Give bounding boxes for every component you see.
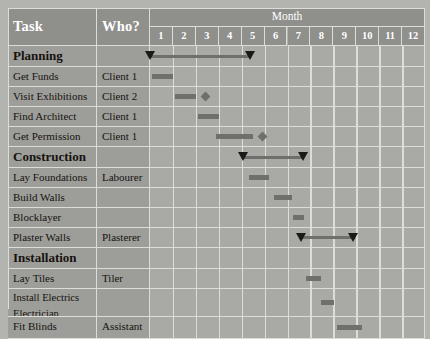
- gantt-row[interactable]: Get FundsClient 1: [8, 67, 425, 87]
- task-name-cell: Blocklayer: [8, 208, 97, 228]
- timeline-cell[interactable]: [150, 289, 425, 317]
- gridline: [356, 147, 358, 167]
- task-bar[interactable]: [293, 215, 303, 220]
- timeline-cell[interactable]: [150, 87, 425, 107]
- gridline: [173, 269, 175, 288]
- gantt-row[interactable]: Installation: [8, 248, 425, 269]
- who-label: Client 2: [102, 87, 149, 106]
- timeline-cell[interactable]: [150, 208, 425, 228]
- who-label: Tiler: [102, 269, 149, 288]
- who-cell: Client 1: [97, 107, 150, 127]
- task-bar[interactable]: [216, 134, 253, 139]
- task-name-label: Install Electrics: [13, 289, 96, 305]
- milestone-diamond-icon[interactable]: [200, 92, 210, 102]
- gridline: [333, 317, 335, 338]
- task-bar[interactable]: [175, 94, 196, 99]
- task-bar[interactable]: [306, 276, 321, 281]
- gantt-row[interactable]: Find ArchitectClient 1: [8, 107, 425, 127]
- task-name-cell: Plaster Walls: [8, 228, 97, 248]
- summary-bar[interactable]: [301, 236, 354, 239]
- timeline-cell[interactable]: [150, 67, 425, 87]
- gridline: [356, 248, 358, 268]
- gantt-row[interactable]: Blocklayer: [8, 208, 425, 228]
- gridline: [402, 317, 404, 338]
- gridline: [196, 188, 198, 207]
- gridline: [402, 107, 404, 126]
- summary-bar[interactable]: [244, 156, 304, 159]
- gridline: [356, 208, 358, 227]
- timeline-cell[interactable]: [150, 269, 425, 289]
- gantt-row[interactable]: Planning: [8, 46, 425, 67]
- who-cell: Client 1: [97, 67, 150, 87]
- gridline: [288, 46, 290, 66]
- gridline: [242, 208, 244, 227]
- who-cell: Tiler: [97, 269, 150, 289]
- task-bar[interactable]: [198, 114, 219, 119]
- gridline: [242, 67, 244, 86]
- gridline: [196, 127, 198, 146]
- timeline-cell[interactable]: [150, 168, 425, 188]
- timeline-cell[interactable]: [150, 107, 425, 127]
- gridline: [196, 208, 198, 227]
- gridline: [379, 289, 381, 316]
- task-bar[interactable]: [337, 325, 362, 330]
- who-cell: Client 2: [97, 87, 150, 107]
- gridline: [402, 248, 404, 268]
- gridline: [173, 208, 175, 227]
- gridline: [219, 147, 221, 167]
- gridline: [242, 188, 244, 207]
- gridline: [379, 168, 381, 187]
- gridline: [173, 107, 175, 126]
- header-month-11: 11: [379, 27, 402, 46]
- gantt-row[interactable]: Construction: [8, 147, 425, 168]
- header-month-7: 7: [288, 27, 311, 46]
- gantt-row[interactable]: Get PermissionClient 1: [8, 127, 425, 147]
- gridline: [288, 228, 290, 247]
- gantt-row[interactable]: Fit BlindsAssistant: [8, 317, 425, 339]
- timeline-cell[interactable]: [150, 46, 425, 67]
- task-name-cell: Build Walls: [8, 188, 97, 208]
- header-month-4: 4: [219, 27, 242, 46]
- gantt-row[interactable]: Lay TilesTiler: [8, 269, 425, 289]
- who-label: Assistant: [102, 317, 149, 336]
- gridline: [333, 269, 335, 288]
- gridline: [333, 248, 335, 268]
- timeline-cell[interactable]: [150, 317, 425, 339]
- timeline-cell[interactable]: [150, 248, 425, 269]
- task-name-label: Visit Exhibitions: [13, 87, 96, 106]
- gridline: [333, 208, 335, 227]
- gantt-row[interactable]: Visit ExhibitionsClient 2: [8, 87, 425, 107]
- gridline: [402, 147, 404, 167]
- task-bar[interactable]: [321, 300, 335, 305]
- gridline: [379, 46, 381, 66]
- gantt-row[interactable]: Build Walls: [8, 188, 425, 208]
- summary-bar[interactable]: [150, 55, 251, 58]
- timeline-cell[interactable]: [150, 188, 425, 208]
- task-bar[interactable]: [274, 195, 292, 200]
- task-bar[interactable]: [249, 175, 270, 180]
- task-name-label: Fit Blinds: [13, 317, 96, 336]
- gridline: [196, 228, 198, 247]
- timeline-cell[interactable]: [150, 147, 425, 168]
- gridline: [310, 46, 312, 66]
- timeline-cell[interactable]: [150, 228, 425, 248]
- gantt-chart: Task Who? Month 123456789101112 Planning…: [8, 8, 425, 309]
- gridline: [379, 107, 381, 126]
- gantt-row[interactable]: Lay FoundationsLabourer: [8, 168, 425, 188]
- gridline: [288, 317, 290, 338]
- gridline: [310, 289, 312, 316]
- task-bar[interactable]: [152, 74, 173, 79]
- header-month-9: 9: [333, 27, 356, 46]
- gridline: [288, 67, 290, 86]
- header-who-column: Who?: [97, 8, 150, 46]
- gridline: [265, 107, 267, 126]
- who-cell: Assistant: [97, 317, 150, 339]
- gantt-row[interactable]: Install ElectricsElectrician: [8, 289, 425, 317]
- header-month-span: Month: [150, 8, 425, 27]
- gridline: [219, 228, 221, 247]
- gantt-row[interactable]: Plaster WallsPlasterer: [8, 228, 425, 248]
- timeline-cell[interactable]: [150, 127, 425, 147]
- task-name-label: Planning: [13, 46, 96, 65]
- who-cell: [97, 46, 150, 67]
- gridline: [196, 289, 198, 316]
